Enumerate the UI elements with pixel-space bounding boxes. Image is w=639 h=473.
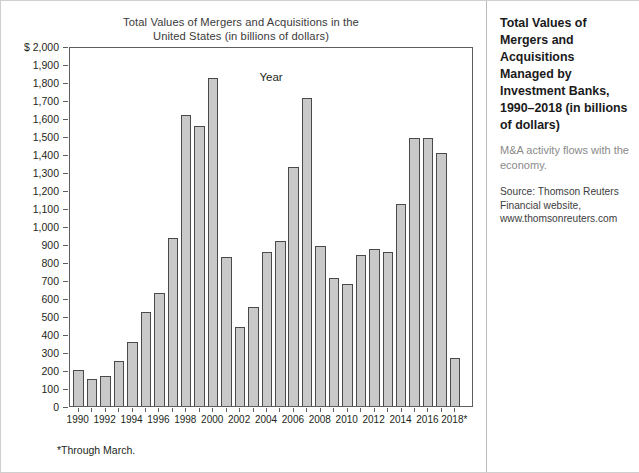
y-axis-tick-mark (63, 245, 68, 246)
bar-slot (300, 48, 313, 406)
x-axis-tick-mark (374, 408, 375, 412)
bar[interactable] (114, 361, 125, 406)
bar[interactable] (369, 249, 380, 406)
bar[interactable] (73, 370, 84, 406)
chart-title-line-1: Total Values of Mergers and Acquisitions… (41, 15, 441, 29)
bar[interactable] (315, 246, 326, 406)
x-axis: 1990199219941996199820002002200420062008… (69, 408, 473, 448)
y-axis-tick-mark (63, 299, 68, 300)
x-axis-tick-label: 2014 (389, 414, 411, 425)
y-axis-tick-mark (63, 83, 68, 84)
bar[interactable] (302, 98, 313, 406)
chart-footnote: *Through March. (57, 444, 135, 456)
bar[interactable] (436, 153, 447, 406)
bar[interactable] (141, 312, 152, 406)
figure-page: Total Values of Mergers and Acquisitions… (0, 0, 639, 473)
x-axis-tick-mark (172, 408, 173, 412)
y-axis-tick-label: 100 (41, 383, 59, 395)
bar[interactable] (396, 204, 407, 406)
bar-slot (180, 48, 193, 406)
y-axis-tick-mark (63, 209, 68, 210)
bar-slot (72, 48, 85, 406)
bar-slot (408, 48, 421, 406)
chart-title-line-2: United States (in billions of dollars) (41, 29, 441, 43)
bar-slot (139, 48, 152, 406)
bar[interactable] (262, 252, 273, 406)
bar[interactable] (288, 167, 299, 406)
sidebar-title: Total Values of Mergers and Acquisitions… (500, 15, 629, 134)
x-axis-tick-label: 2000 (201, 414, 223, 425)
bar-slot (448, 48, 461, 406)
bar-slot (435, 48, 448, 406)
x-axis-tick-mark (454, 408, 455, 412)
bar-slot (153, 48, 166, 406)
bar-slot (126, 48, 139, 406)
y-axis-tick-label: 500 (41, 311, 59, 323)
y-axis-tick-label: 1,800 (33, 77, 59, 89)
x-axis-tick-mark (401, 408, 402, 412)
x-axis-tick-mark (279, 408, 280, 412)
bar-slot (274, 48, 287, 406)
bar[interactable] (356, 255, 367, 406)
x-axis-tick-mark (360, 408, 361, 412)
x-axis-tick-mark (306, 408, 307, 412)
bar-slot (112, 48, 125, 406)
bar[interactable] (154, 293, 165, 406)
y-axis-tick-label: 800 (41, 257, 59, 269)
bar[interactable] (409, 138, 420, 406)
y-axis-tick-label: 1,900 (33, 59, 59, 71)
y-axis-tick-label: 1,200 (33, 185, 59, 197)
bar[interactable] (87, 379, 98, 406)
bar-slot (421, 48, 434, 406)
bar[interactable] (181, 115, 192, 406)
bar-series (70, 48, 473, 406)
bar-slot (99, 48, 112, 406)
y-axis: $ 2,0001,9001,8001,7001,6001,5001,4001,3… (5, 47, 65, 407)
x-axis-tick-label: 2018* (441, 414, 467, 425)
sidebar-description: M&A activity flows with the economy. (500, 143, 629, 173)
x-axis-title: Year (69, 71, 473, 83)
x-axis-tick-mark (132, 408, 133, 412)
x-axis-tick-mark (427, 408, 428, 412)
bar[interactable] (127, 342, 138, 406)
bar[interactable] (342, 284, 353, 406)
bar[interactable] (168, 238, 179, 406)
bar[interactable] (423, 138, 434, 406)
y-axis-tick-label: 600 (41, 293, 59, 305)
bar[interactable] (383, 252, 394, 406)
bar[interactable] (194, 126, 205, 406)
x-axis-tick-mark (212, 408, 213, 412)
bar-slot (327, 48, 340, 406)
bar[interactable] (450, 358, 461, 406)
bar-slot (193, 48, 206, 406)
y-axis-tick-label: 900 (41, 239, 59, 251)
x-axis-tick-mark (145, 408, 146, 412)
bar[interactable] (248, 307, 259, 406)
y-axis-tick-label: 1,000 (33, 221, 59, 233)
bar-slot (395, 48, 408, 406)
bar-slot (341, 48, 354, 406)
bar[interactable] (100, 376, 111, 406)
bar[interactable] (221, 257, 232, 406)
y-axis-tick-mark (63, 65, 68, 66)
y-axis-tick-mark (63, 173, 68, 174)
bar-slot (368, 48, 381, 406)
bar[interactable] (208, 78, 219, 407)
plot-wrapper: $ 2,0001,9001,8001,7001,6001,5001,4001,3… (69, 47, 473, 407)
x-axis-tick-mark (293, 408, 294, 412)
y-axis-tick-mark (63, 317, 68, 318)
x-axis-tick-label: 1996 (147, 414, 169, 425)
y-axis-tick-mark (63, 371, 68, 372)
x-axis-tick-label: 1994 (120, 414, 142, 425)
bar[interactable] (235, 327, 246, 406)
y-axis-tick-mark (63, 227, 68, 228)
y-axis-tick-mark (63, 155, 68, 156)
bar[interactable] (275, 241, 286, 406)
y-axis-tick-label: 200 (41, 365, 59, 377)
y-axis-tick-mark (63, 101, 68, 102)
y-axis-tick-mark (63, 389, 68, 390)
x-axis-tick-mark (239, 408, 240, 412)
bar-slot (381, 48, 394, 406)
bar[interactable] (329, 278, 340, 406)
bar-slot (166, 48, 179, 406)
